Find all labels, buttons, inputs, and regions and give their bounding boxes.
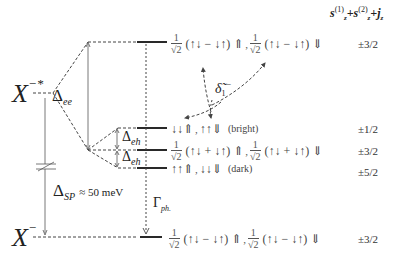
level-bright-states: ↓↓⇑ , ↑↑⇓ (bright) [171, 123, 258, 135]
relaxation-delta1-label: δ̃1− [215, 80, 232, 98]
delta-sp-label: ΔSP ≈ 50 meV [53, 182, 123, 202]
level-top-mj: ±3/2 [358, 38, 378, 50]
level-dark-states: ↑↑⇑ , ↓↓⇓ (dark) [171, 163, 252, 175]
level-middle-mj: ±3/2 [358, 145, 378, 157]
excited-trion-label: X−* [12, 81, 43, 107]
level-ground-mj: ±3/2 [358, 233, 378, 245]
level-dark-mj: ±5/2 [358, 166, 378, 178]
level-middle-states: 1√2 (↑↓ + ↓↑) ⇑ , 1√2 (↑↓ + ↓↑) ⇓ [171, 140, 322, 162]
ground-trion-label: X− [12, 225, 37, 251]
delta-eh-label-1: Δeh [122, 130, 140, 147]
energy-level-diagram: s(1)z+s(2)z+jz X−* X− Δee Δeh Δeh ΔSP ≈ … [0, 0, 407, 266]
column-header-total-spin: s(1)z+s(2)z+jz [330, 6, 383, 22]
phonon-gamma-label: Γph. [153, 196, 171, 213]
level-bright-mj: ±1/2 [358, 123, 378, 135]
level-top-states: 1√2 (↑↓ − ↓↑) ⇑ , 1√2 (↑↓ − ↓↑) ⇓ [171, 33, 322, 55]
level-ground-states: 1√2 (↑↓ − ↓↑) ⇑ , 1√2 (↑↓ − ↓↑) ⇓ [169, 228, 320, 250]
delta-eh-label-2: Δeh [122, 150, 140, 167]
delta-ee-label: Δee [52, 87, 72, 107]
